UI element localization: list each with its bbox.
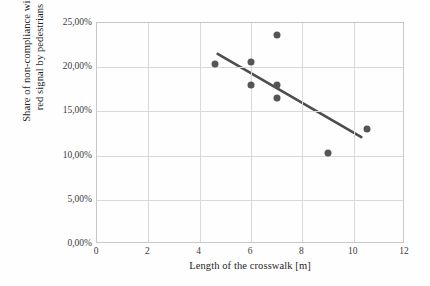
data-point: [363, 126, 370, 133]
x-axis-title: Length of the crosswalk [m]: [96, 260, 404, 271]
x-axis-tick-label: 10: [338, 245, 368, 257]
x-axis-tick-label: 12: [389, 245, 419, 257]
gridline-horizontal: [97, 67, 403, 68]
gridline-vertical: [354, 23, 355, 242]
x-axis-tick-label: 0: [81, 245, 111, 257]
x-axis-tick-label: 2: [132, 245, 162, 257]
data-point: [273, 95, 280, 102]
y-axis-tick-labels: 0,00%5,00%10,00%15,00%20,00%25,00%: [42, 0, 92, 286]
gridline-vertical: [302, 23, 303, 242]
data-point: [273, 81, 280, 88]
scatter-chart: Share of non-compliance with red signal …: [0, 0, 430, 286]
data-point: [273, 32, 280, 39]
x-axis-tick-labels: 024681012: [0, 245, 430, 261]
plot-area: [96, 22, 404, 243]
y-axis-tick-label: 5,00%: [46, 194, 92, 204]
x-axis-tick-label: 8: [286, 245, 316, 257]
gridline-horizontal: [97, 111, 403, 112]
y-axis-tick-label: 10,00%: [46, 150, 92, 160]
data-point: [248, 81, 255, 88]
gridline-vertical: [200, 23, 201, 242]
data-point: [212, 60, 219, 67]
data-point: [325, 149, 332, 156]
y-axis-tick-label: 25,00%: [46, 17, 92, 27]
gridline-vertical: [251, 23, 252, 242]
x-axis-tick-label: 6: [235, 245, 265, 257]
gridline-horizontal: [97, 200, 403, 201]
y-axis-title-line-1: Share of non-compliance with: [20, 0, 33, 152]
y-axis-tick-label: 15,00%: [46, 105, 92, 115]
x-axis-tick-label: 4: [184, 245, 214, 257]
data-point: [248, 58, 255, 65]
gridline-vertical: [148, 23, 149, 242]
gridline-horizontal: [97, 156, 403, 157]
y-axis-tick-label: 20,00%: [46, 61, 92, 71]
